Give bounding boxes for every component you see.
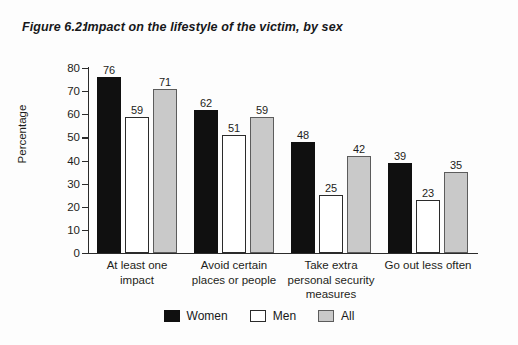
y-axis-tick-label: 50 — [40, 131, 80, 143]
y-axis-tick-labels: 80706050403020100 — [36, 0, 80, 345]
figure-title-text: Impact on the lifestyle of the victim, b… — [84, 20, 343, 34]
bar-value-label: 59 — [131, 104, 143, 116]
bar-value-label: 71 — [159, 76, 171, 88]
y-axis-tick-label: 30 — [40, 178, 80, 190]
black-square-swatch — [164, 310, 180, 322]
bar-value-label: 42 — [353, 143, 365, 155]
figure-container: Figure 6.2:Impact on the lifestyle of th… — [0, 0, 518, 345]
bar: 25 — [319, 195, 343, 253]
bar: 42 — [347, 156, 371, 253]
bar-value-label: 62 — [200, 97, 212, 109]
y-axis-tick-label: 20 — [40, 201, 80, 213]
bar-value-label: 23 — [422, 187, 434, 199]
white-square-swatch — [250, 310, 266, 322]
legend-item[interactable]: All — [318, 309, 354, 323]
bar-value-label: 35 — [450, 159, 462, 171]
x-axis-category-label: Go out less often — [369, 258, 487, 273]
bar: 59 — [125, 117, 149, 253]
bar: 71 — [153, 89, 177, 253]
bar: 62 — [194, 110, 218, 253]
legend-item-label: Men — [273, 309, 296, 323]
bar: 48 — [291, 142, 315, 253]
bar-value-label: 39 — [394, 150, 406, 162]
y-axis-tick-label: 70 — [40, 85, 80, 97]
legend-item-label: All — [341, 309, 354, 323]
bar-value-label: 59 — [256, 104, 268, 116]
y-axis-tick-label: 0 — [40, 247, 80, 259]
y-axis-tick-label: 80 — [40, 62, 80, 74]
bar-value-label: 48 — [297, 129, 309, 141]
bar: 23 — [416, 200, 440, 253]
plot-area: 765971625159482542392335 — [88, 68, 477, 253]
bar: 76 — [97, 77, 121, 253]
bar: 59 — [250, 117, 274, 253]
bar: 39 — [388, 163, 412, 253]
y-axis-tick-label: 10 — [40, 224, 80, 236]
chart-legend: WomenMenAll — [0, 309, 518, 323]
y-axis-title: Percentage — [16, 74, 28, 194]
bar: 51 — [222, 135, 246, 253]
y-axis-tick-label: 40 — [40, 155, 80, 167]
legend-item[interactable]: Men — [250, 309, 296, 323]
gray-square-swatch — [318, 310, 334, 322]
bar: 35 — [444, 172, 468, 253]
legend-item[interactable]: Women — [164, 309, 228, 323]
bar-value-label: 25 — [325, 182, 337, 194]
legend-item-label: Women — [187, 309, 228, 323]
y-axis-tick-label: 60 — [40, 108, 80, 120]
bar-value-label: 76 — [103, 64, 115, 76]
bar-value-label: 51 — [228, 122, 240, 134]
